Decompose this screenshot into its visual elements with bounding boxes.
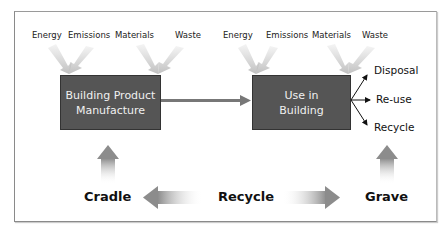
box-use-in-building: Use in Building <box>252 75 351 130</box>
stage-cradle: Cradle <box>84 189 131 204</box>
input-arrows-left <box>48 44 184 74</box>
input-arrows-right <box>238 44 375 74</box>
stage-grave: Grave <box>365 189 408 204</box>
input-label-waste: Waste <box>362 30 388 40</box>
input-label-waste: Waste <box>175 30 201 40</box>
box-building-product-manufacture: Building Product Manufacture <box>60 75 161 130</box>
input-label-materials: Materials <box>115 30 154 40</box>
input-label-emissions: Emissions <box>266 30 308 40</box>
outcome-recycle: Recycle <box>374 121 414 133</box>
outcome-reuse: Re-use <box>376 93 412 105</box>
input-label-materials: Materials <box>312 30 351 40</box>
outcome-arrows <box>351 75 370 125</box>
grave-up-arrow <box>376 145 398 184</box>
stage-recycle: Recycle <box>218 189 274 204</box>
connector-arrow <box>160 95 251 106</box>
input-label-energy: Energy <box>223 30 253 40</box>
cradle-up-arrow <box>97 145 119 184</box>
box-use-line2: Building <box>279 103 324 118</box>
input-label-energy: Energy <box>32 30 62 40</box>
input-label-emissions: Emissions <box>68 30 110 40</box>
box-use-line1: Use in <box>279 88 324 103</box>
box-manufacture-line2: Manufacture <box>66 103 156 118</box>
box-manufacture-line1: Building Product <box>66 88 156 103</box>
recycle-left-arrow <box>143 186 203 209</box>
outcome-disposal: Disposal <box>374 64 418 76</box>
recycle-right-arrow <box>282 186 340 209</box>
